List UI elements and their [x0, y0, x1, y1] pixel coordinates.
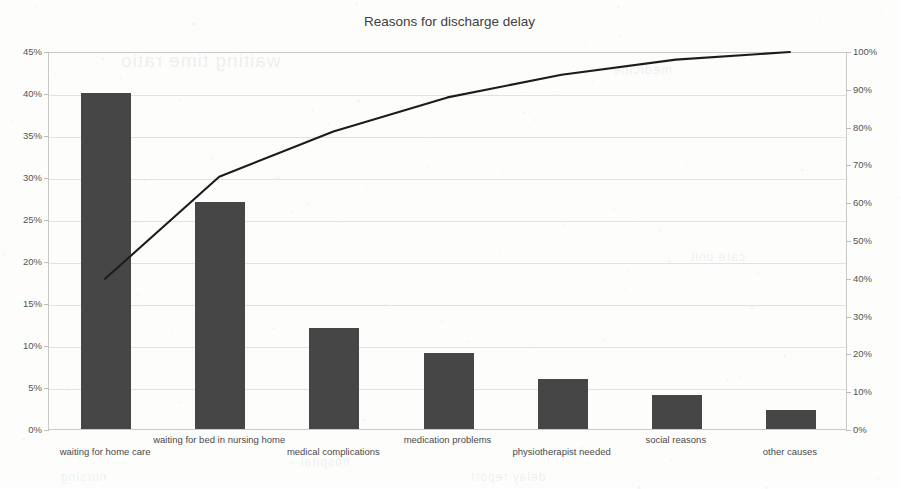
- left-axis-tick-label: 5%: [2, 382, 42, 393]
- right-axis-tick-label: 80%: [853, 122, 897, 133]
- right-axis-tick-label: 30%: [853, 311, 897, 322]
- left-axis-tick-label: 20%: [2, 256, 42, 267]
- cumulative-line-series: [48, 52, 847, 430]
- right-axis-tick-mark: [846, 203, 851, 204]
- right-axis-tick-mark: [846, 128, 851, 129]
- right-axis-tick-mark: [846, 165, 851, 166]
- right-axis-tick-label: 20%: [853, 348, 897, 359]
- right-axis-tick-label: 0%: [853, 424, 897, 435]
- left-axis-tick-mark: [44, 346, 49, 347]
- right-axis-tick-label: 10%: [853, 386, 897, 397]
- left-axis-tick-label: 35%: [2, 130, 42, 141]
- chart-title: Reasons for discharge delay: [0, 14, 899, 29]
- right-axis-tick-mark: [846, 241, 851, 242]
- right-axis-tick-mark: [846, 430, 851, 431]
- right-axis-tick-label: 50%: [853, 235, 897, 246]
- cumulative-polyline: [105, 52, 790, 279]
- right-axis-tick-label: 70%: [853, 159, 897, 170]
- left-axis-tick-mark: [44, 220, 49, 221]
- left-axis-tick-label: 45%: [2, 46, 42, 57]
- left-axis-tick-mark: [44, 388, 49, 389]
- left-axis-tick-mark: [44, 178, 49, 179]
- left-axis-tick-mark: [44, 304, 49, 305]
- left-axis-tick-label: 10%: [2, 340, 42, 351]
- right-axis-tick-label: 90%: [853, 84, 897, 95]
- left-axis-tick-mark: [44, 262, 49, 263]
- left-axis-tick-mark: [44, 136, 49, 137]
- right-axis-tick-label: 100%: [853, 46, 897, 57]
- left-axis-tick-label: 0%: [2, 424, 42, 435]
- category-label: waiting for home care: [60, 446, 151, 457]
- right-axis-tick-mark: [846, 392, 851, 393]
- right-axis-tick-mark: [846, 90, 851, 91]
- left-axis-tick-label: 30%: [2, 172, 42, 183]
- category-label: other causes: [763, 446, 817, 457]
- category-label: physiotherapist needed: [513, 446, 611, 457]
- right-axis-tick-label: 40%: [853, 273, 897, 284]
- left-axis-tick-label: 25%: [2, 214, 42, 225]
- category-label: medical complications: [287, 446, 380, 457]
- left-axis-tick-mark: [44, 430, 49, 431]
- left-axis-tick-mark: [44, 94, 49, 95]
- right-axis-tick-mark: [846, 279, 851, 280]
- right-axis-tick-label: 60%: [853, 197, 897, 208]
- right-axis-tick-mark: [846, 52, 851, 53]
- category-label: social reasons: [645, 434, 706, 445]
- left-axis-tick-label: 15%: [2, 298, 42, 309]
- right-axis-tick-mark: [846, 354, 851, 355]
- category-label: waiting for bed in nursing home: [153, 434, 285, 445]
- left-axis-tick-mark: [44, 52, 49, 53]
- right-axis-tick-mark: [846, 317, 851, 318]
- category-label: medication problems: [404, 434, 492, 445]
- left-axis-tick-label: 40%: [2, 88, 42, 99]
